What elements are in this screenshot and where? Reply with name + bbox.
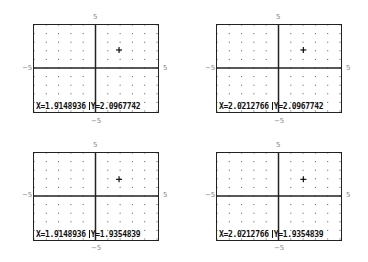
crosshair-cursor-icon [300, 47, 306, 53]
x-coordinate: X=1.9148936 [36, 102, 86, 111]
graph-screen[interactable]: X=2.0212766Y=1.9354839 [216, 152, 342, 241]
axis-line-fragment [272, 102, 273, 110]
coordinate-readout: X=2.0212766Y=1.9354839 [219, 230, 323, 239]
xmin-label: −5 [205, 191, 215, 199]
coordinate-readout: X=2.0212766Y=2.0967742 [219, 102, 323, 111]
graph-screen[interactable]: X=1.9148936Y=2.0967742 [33, 24, 159, 113]
graph-panel-bottom-right: 5 −5 5 −5 X=2.0212766Y=1.9354839 [183, 128, 367, 259]
crosshair-cursor-icon [116, 47, 122, 53]
y-coordinate: Y=1.9354839 [91, 230, 141, 239]
grid-dots [217, 153, 343, 242]
ymax-label: 5 [93, 141, 97, 149]
axis-line-fragment [89, 230, 90, 238]
ymax-label: 5 [276, 13, 280, 21]
graph-panel-top-right: 5 −5 5 −5 X=2.0212766Y=2.0967742 [183, 0, 367, 131]
coordinate-readout: X=1.9148936Y=1.9354839 [36, 230, 140, 239]
xmin-label: −5 [205, 64, 215, 72]
ymin-label: −5 [274, 117, 284, 125]
graph-screen[interactable]: X=1.9148936Y=1.9354839 [33, 152, 159, 241]
graph-panel-top-left: 5 −5 5 −5 X=1.9148936Y=2.0967742 [0, 0, 184, 131]
axis-line-fragment [272, 230, 273, 238]
xmax-label: 5 [346, 64, 350, 72]
y-coordinate: Y=2.0967742 [274, 102, 324, 111]
ymax-label: 5 [276, 141, 280, 149]
graph-screen[interactable]: X=2.0212766Y=2.0967742 [216, 24, 342, 113]
grid-dots [34, 153, 160, 242]
crosshair-cursor-icon [116, 176, 122, 182]
x-coordinate: X=2.0212766 [219, 102, 269, 111]
grid-dots [34, 25, 160, 114]
graph-panel-bottom-left: 5 −5 5 −5 X=1.9148936Y=1.9354839 [0, 128, 184, 259]
y-coordinate: Y=1.9354839 [274, 230, 324, 239]
coordinate-readout: X=1.9148936Y=2.0967742 [36, 102, 140, 111]
ymin-label: −5 [274, 244, 284, 252]
x-coordinate: X=1.9148936 [36, 230, 86, 239]
ymax-label: 5 [93, 13, 97, 21]
xmin-label: −5 [22, 64, 32, 72]
grid-dots [217, 25, 343, 114]
crosshair-cursor-icon [300, 176, 306, 182]
y-coordinate: Y=2.0967742 [91, 102, 141, 111]
ymin-label: −5 [91, 244, 101, 252]
xmax-label: 5 [163, 191, 167, 199]
x-coordinate: X=2.0212766 [219, 230, 269, 239]
xmax-label: 5 [163, 64, 167, 72]
ymin-label: −5 [91, 117, 101, 125]
xmax-label: 5 [346, 191, 350, 199]
axis-line-fragment [89, 102, 90, 110]
xmin-label: −5 [22, 191, 32, 199]
